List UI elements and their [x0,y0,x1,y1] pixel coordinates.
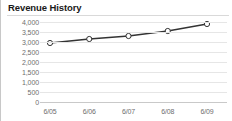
y-axis-tick-label: 3,000 [3,39,39,46]
y-axis: 05001,0001,5002,0002,5003,0003,5004,000 [1,16,39,121]
x-axis-tick-label: 6/09 [200,108,213,115]
plot-area: 6/056/066/076/086/09 [40,16,227,121]
y-axis-tick-label: 1,500 [3,69,39,76]
gridline [40,62,227,63]
y-axis-tick-label: 2,500 [3,49,39,56]
y-axis-tick-label: 2,000 [3,59,39,66]
gridline [40,32,227,33]
x-axis-tick-label: 6/05 [43,108,56,115]
chart-title: Revenue History [8,2,81,13]
x-axis-tick-label: 6/08 [161,108,174,115]
gridline [40,82,227,83]
gridline [40,42,227,43]
y-axis-tick-label: 0 [3,99,39,106]
data-point-marker[interactable] [87,36,92,41]
y-axis-tick-label: 1,000 [3,79,39,86]
chart-plot-wrapper: 05001,0001,5002,0002,5003,0003,5004,000 … [1,16,232,121]
gridline [40,72,227,73]
y-axis-tick-label: 500 [3,89,39,96]
y-axis-tick-label: 3,500 [3,29,39,36]
y-axis-tick-label: 4,000 [3,19,39,26]
data-point-marker[interactable] [126,33,131,38]
chart-header: Revenue History [1,0,232,16]
x-axis-tick-label: 6/06 [83,108,96,115]
revenue-history-chart-widget: Revenue History 05001,0001,5002,0002,500… [0,0,232,121]
gridline [40,92,227,93]
gridline [40,22,227,23]
gridline [40,52,227,53]
x-axis-tick-label: 6/07 [122,108,135,115]
x-axis-baseline [40,102,227,103]
